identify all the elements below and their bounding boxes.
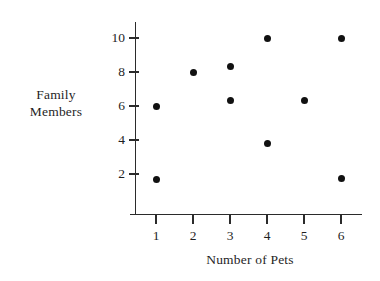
x-axis-tick [229,215,230,224]
data-point [338,35,345,42]
data-point [264,140,271,147]
x-axis-tick-label: 5 [294,229,314,243]
y-axis-tick-label: 6 [97,99,125,113]
data-point [301,97,308,104]
scatter-plot-figure: Family Members 246810123456 Number of Pe… [0,0,380,281]
data-point [227,63,234,70]
data-point [338,175,345,182]
y-axis-tick [129,173,139,174]
data-point [264,35,271,42]
x-axis-tick-label: 6 [331,229,351,243]
y-axis-tick [129,139,139,140]
y-axis-tick-label: 8 [97,65,125,79]
y-axis-tick [129,105,139,106]
y-axis-tick-label: 2 [97,167,125,181]
data-point [227,97,234,104]
x-axis-tick [303,215,304,224]
x-axis-tick-label: 3 [220,229,240,243]
x-axis-tick-label: 2 [183,229,203,243]
x-axis-tick-label: 1 [146,229,166,243]
x-axis-tick-label: 4 [257,229,277,243]
y-axis-tick [129,37,139,38]
x-axis-line [130,214,362,215]
x-axis-tick [340,215,341,224]
y-axis-tick-label: 4 [97,133,125,147]
x-axis-title: Number of Pets [130,252,370,268]
data-point [153,176,160,183]
y-axis-tick [129,71,139,72]
data-point [190,69,197,76]
y-axis-tick-label: 10 [97,31,125,45]
plot-area: 246810123456 [0,0,380,281]
x-axis-tick [266,215,267,224]
x-axis-tick [192,215,193,224]
y-axis-line [135,22,136,215]
data-point [153,103,160,110]
x-axis-tick [155,215,156,224]
